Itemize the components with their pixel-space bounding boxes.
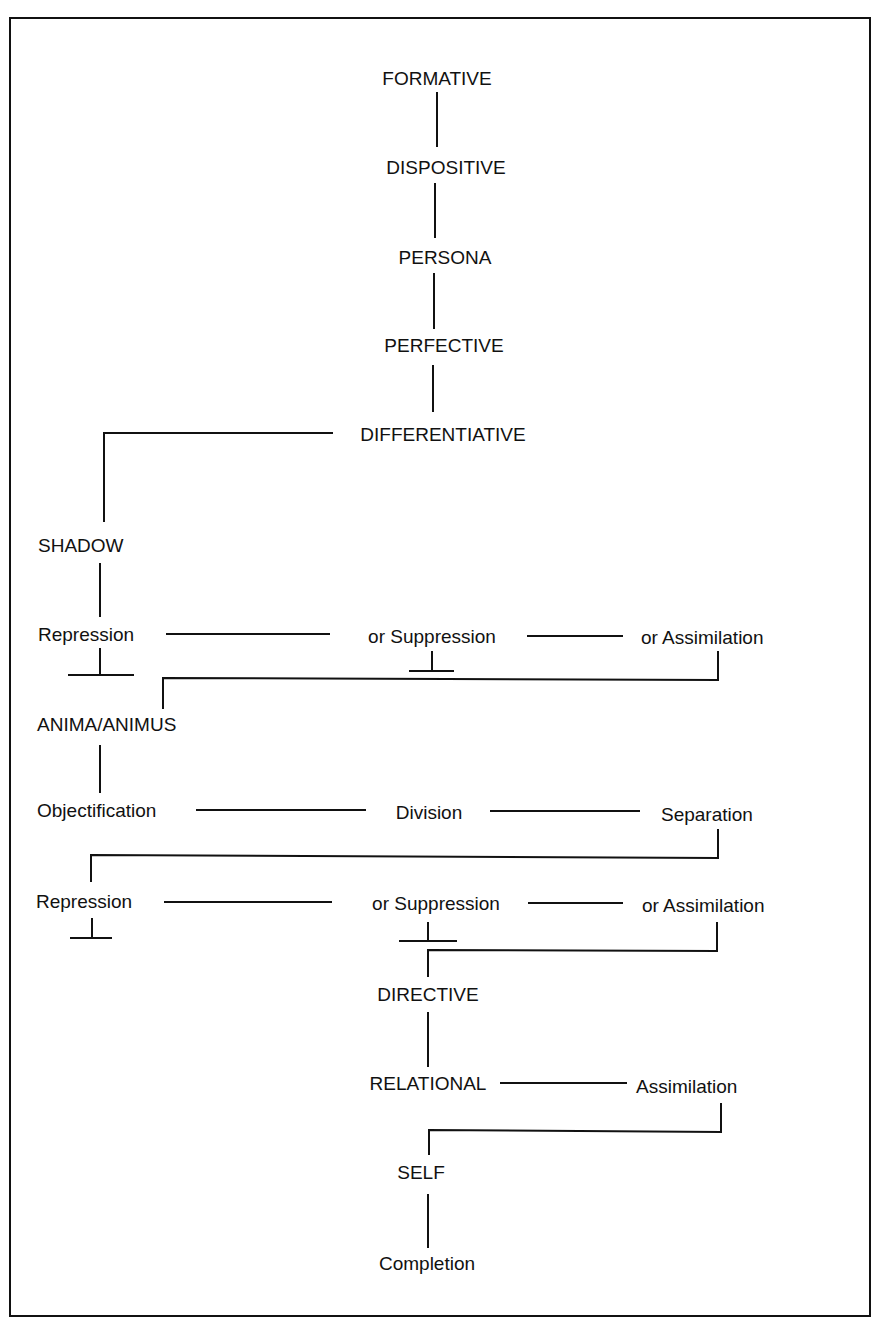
node-anima-animus: ANIMA/ANIMUS — [37, 714, 176, 736]
node-directive: DIRECTIVE — [377, 984, 478, 1006]
connector-lines — [0, 0, 879, 1336]
node-self: SELF — [397, 1162, 445, 1184]
node-assimilation-1: or Assimilation — [641, 627, 764, 649]
node-relational: RELATIONAL — [370, 1073, 487, 1095]
node-suppression-1: or Suppression — [368, 626, 496, 648]
node-shadow: SHADOW — [38, 535, 124, 557]
node-completion: Completion — [379, 1253, 475, 1275]
node-division: Division — [396, 802, 463, 824]
node-separation: Separation — [661, 804, 753, 826]
node-objectification: Objectification — [37, 800, 156, 822]
node-repression-1: Repression — [38, 624, 134, 646]
node-differentiative: DIFFERENTIATIVE — [360, 424, 525, 446]
node-assimilation-2: or Assimilation — [642, 895, 765, 917]
node-assimilation-3: Assimilation — [636, 1076, 737, 1098]
node-dispositive: DISPOSITIVE — [386, 157, 505, 179]
node-persona: PERSONA — [399, 247, 492, 269]
node-formative: FORMATIVE — [382, 68, 491, 90]
node-perfective: PERFECTIVE — [384, 335, 503, 357]
node-repression-2: Repression — [36, 891, 132, 913]
node-suppression-2: or Suppression — [372, 893, 500, 915]
